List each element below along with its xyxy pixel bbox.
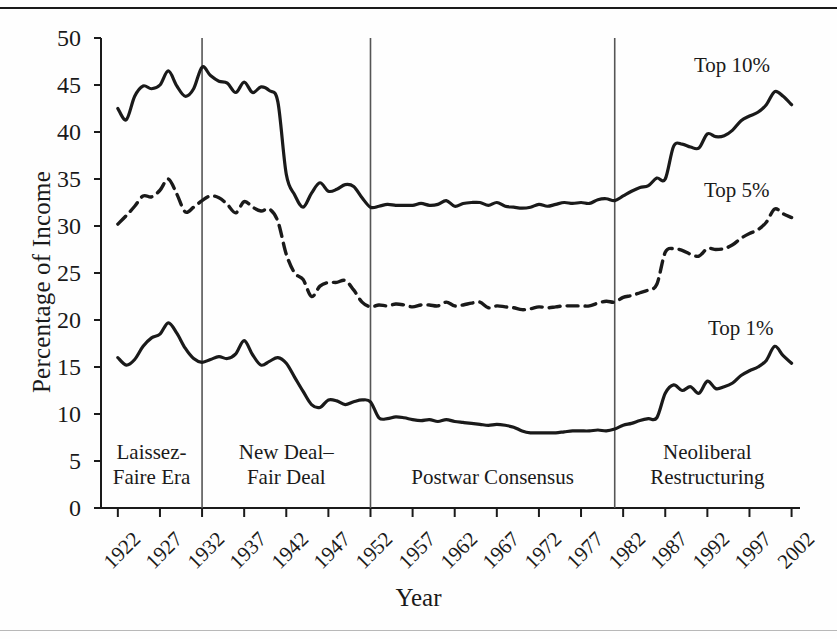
era-divider-lines (202, 38, 615, 508)
era-label-line2: Restructuring (587, 465, 827, 490)
era-label-line1: New Deal– (166, 440, 406, 465)
x-axis-title: Year (0, 584, 837, 612)
era-label-line1: Neoliberal (587, 440, 827, 465)
era-label-neoliberal: NeoliberalRestructuring (587, 440, 827, 490)
series-line-top-1 (118, 323, 792, 433)
y-axis-title: Percentage of Income (28, 92, 56, 472)
data-series-group (118, 67, 792, 433)
y-tick-label-50: 50 (35, 26, 81, 50)
figure-container: 05101520253035404550 1922192719321937194… (0, 0, 837, 639)
series-label-top-1: Top 1% (708, 316, 774, 341)
series-label-top-10: Top 10% (694, 53, 770, 78)
era-label-new-deal: New Deal–Fair Deal (166, 440, 406, 490)
series-label-top-5: Top 5% (704, 178, 770, 203)
series-line-top-10 (118, 67, 792, 208)
y-tick-label-0: 0 (35, 496, 81, 520)
series-line-top-5 (118, 179, 792, 310)
era-label-postwar: Postwar Consensus (373, 465, 613, 490)
era-label-line2: Fair Deal (166, 465, 406, 490)
era-label-line1: Postwar Consensus (373, 465, 613, 490)
